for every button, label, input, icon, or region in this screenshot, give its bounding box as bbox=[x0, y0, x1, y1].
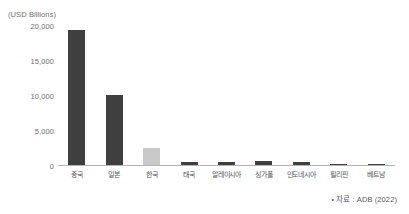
x-axis-tick-label: 태국 bbox=[170, 170, 207, 186]
bar-slot bbox=[320, 26, 357, 166]
source-note-text: 자료 : ADB (2022) bbox=[336, 195, 397, 204]
x-axis-tick-label: 베트남 bbox=[358, 170, 395, 186]
source-bullet-icon: • bbox=[332, 196, 335, 203]
bar-slot bbox=[58, 26, 95, 166]
y-axis-tick-label: 20,000 bbox=[0, 22, 54, 31]
bar-slot bbox=[208, 26, 245, 166]
y-axis-tick-label: 10,000 bbox=[0, 92, 54, 101]
bar-slot bbox=[245, 26, 282, 166]
y-axis-tick-label: 5,000 bbox=[0, 127, 54, 136]
bar-slot bbox=[358, 26, 395, 166]
x-axis-tick-label: 필리핀 bbox=[320, 170, 357, 186]
x-axis-tick-label: 인도네시아 bbox=[283, 170, 320, 186]
bar bbox=[106, 95, 123, 166]
y-axis-tick-label: 15,000 bbox=[0, 57, 54, 66]
source-note: •자료 : ADB (2022) bbox=[332, 193, 398, 204]
bar-slot bbox=[95, 26, 132, 166]
x-axis-tick-label: 중국 bbox=[58, 170, 95, 186]
bar bbox=[68, 30, 85, 166]
bar bbox=[143, 148, 160, 166]
x-axis-tick-label: 싱가폴 bbox=[245, 170, 282, 186]
x-axis-tick-label: 말레이시아 bbox=[208, 170, 245, 186]
x-axis-tick-label: 일본 bbox=[95, 170, 132, 186]
y-axis-tick-labels: 20,00015,00010,0005,0000 bbox=[0, 0, 54, 214]
bar-slot bbox=[283, 26, 320, 166]
bar-series bbox=[58, 26, 395, 166]
x-axis-category-labels: 중국일본한국태국말레이시아싱가폴인도네시아필리핀베트남 bbox=[58, 170, 395, 186]
x-axis-tick-label: 한국 bbox=[133, 170, 170, 186]
bar-chart-figure: (USD Billions) 20,00015,00010,0005,0000 … bbox=[0, 0, 409, 214]
y-axis-tick-label: 0 bbox=[0, 162, 54, 171]
bar-slot bbox=[133, 26, 170, 166]
x-axis-baseline bbox=[58, 165, 395, 166]
bar-slot bbox=[170, 26, 207, 166]
